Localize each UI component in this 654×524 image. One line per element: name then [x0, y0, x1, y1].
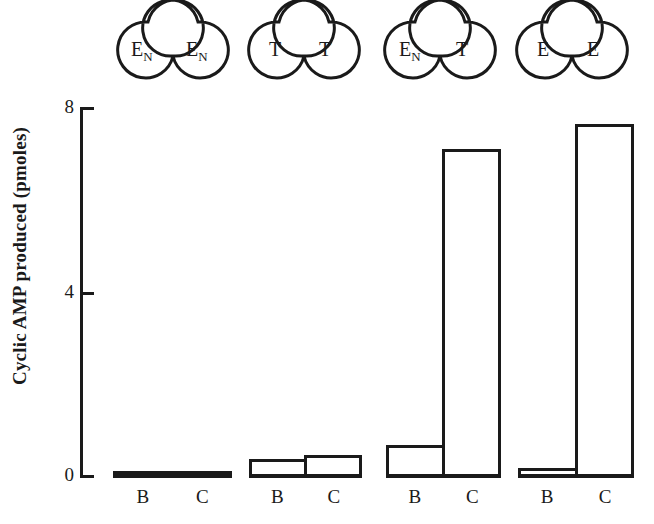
xlabel-group-4-B: B — [518, 486, 576, 508]
dimer-1-left-sub: N — [143, 49, 153, 64]
y-tick-label-4: 4 — [50, 281, 74, 303]
bar-group-1-xlabels: B C — [113, 478, 232, 508]
dimer-3-left-main: E — [399, 38, 411, 60]
bar-group-4-C[interactable] — [575, 124, 635, 478]
bar-group-3-xlabels: B C — [386, 478, 501, 508]
xlabel-group-4-C: C — [576, 486, 634, 508]
xlabel-group-3-C: C — [444, 486, 502, 508]
xlabel-group-2-C: C — [306, 486, 363, 508]
bar-group-4-bars — [518, 106, 634, 478]
bar-group-2-bars — [249, 106, 362, 478]
chart-figure: Cyclic AMP produced (pmoles) 8 4 0 E N E… — [0, 0, 654, 524]
y-tick-0: 0 — [0, 475, 100, 478]
dimer-icon-group-1: E N E N — [114, 14, 232, 86]
xlabel-group-1-B: B — [113, 486, 173, 508]
y-tick-8: 8 — [0, 107, 100, 110]
y-tick-label-0: 0 — [50, 464, 74, 486]
xlabel-group-2-B: B — [249, 486, 306, 508]
y-tick-mark-8 — [83, 107, 94, 110]
dimer-1-right-main: E — [186, 38, 198, 60]
dimer-4-right-main: E — [587, 38, 599, 60]
dimer-2-right-main: T — [319, 38, 331, 60]
bar-group-1-bars — [113, 106, 232, 478]
dimer-1-left-main: E — [131, 38, 143, 60]
bar-group-4-xlabels: B C — [518, 478, 634, 508]
dimer-1-right-sub: N — [198, 49, 208, 64]
bar-group-3-bars — [386, 106, 501, 478]
xlabel-group-1-C: C — [173, 486, 233, 508]
dimer-2-left-main: T — [269, 38, 281, 60]
bar-group-2: B C — [249, 106, 362, 478]
dimer-icon-group-3: E N T — [384, 14, 496, 86]
y-tick-mark-0 — [83, 475, 94, 478]
bar-group-2-xlabels: B C — [249, 478, 362, 508]
dimer-4-left-main: E — [537, 38, 549, 60]
bar-group-1: B C — [113, 106, 232, 478]
y-tick-mark-4 — [83, 292, 94, 295]
dimer-icon-group-4: E E — [517, 14, 627, 86]
dimer-3-right-main: T — [456, 38, 468, 60]
xlabel-group-3-B: B — [386, 486, 444, 508]
dimer-icon-group-2: T T — [250, 14, 358, 86]
bar-group-3-C[interactable] — [442, 149, 501, 478]
plot-area: 8 4 0 E N E N — [0, 0, 654, 524]
y-tick-4: 4 — [0, 292, 100, 295]
bar-group-3: B C — [386, 106, 501, 478]
y-tick-label-8: 8 — [50, 96, 74, 118]
dimer-3-left-sub: N — [411, 49, 421, 64]
bar-group-4: B C — [518, 106, 634, 478]
